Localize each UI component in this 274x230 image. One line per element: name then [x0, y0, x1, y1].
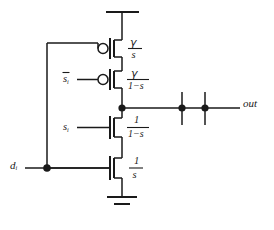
size-label-nmos-bottom: 1 s: [129, 155, 143, 181]
size-label-nmos-top: 1 1−s: [127, 114, 149, 139]
svg-text:1−s: 1−s: [128, 80, 144, 91]
label-select: si: [63, 121, 69, 133]
svg-text:1: 1: [134, 155, 139, 166]
data-junction-dot: [43, 164, 51, 172]
svg-text:1: 1: [134, 114, 139, 125]
transistor-nmos-top: [77, 108, 122, 152]
data-input-wire: [25, 43, 110, 172]
svg-text:γ: γ: [131, 67, 138, 80]
svg-text:s: s: [132, 49, 136, 60]
inversion-bubble-icon: [98, 75, 108, 85]
label-select-bar: si: [63, 73, 70, 86]
schematic-canvas: γ s si γ 1−s: [0, 0, 274, 230]
cross-junction-dot-2: [201, 104, 208, 111]
label-output: out: [243, 97, 258, 109]
svg-text:1−s: 1−s: [128, 128, 144, 139]
ground-symbol: [107, 197, 137, 204]
svg-text:γ: γ: [130, 36, 137, 49]
transistor-pmos-bottom: [77, 68, 122, 108]
transistor-pmos-top: [47, 31, 122, 68]
transistor-nmos-bottom: [47, 152, 122, 197]
svg-text:si: si: [63, 73, 69, 85]
output-wire-group: [122, 92, 240, 125]
size-label-pmos-bottom: γ 1−s: [127, 67, 149, 92]
label-data-input: di: [10, 159, 18, 172]
svg-text:s: s: [133, 169, 137, 180]
size-label-pmos-top: γ s: [128, 36, 142, 61]
circuit-diagram: γ s si γ 1−s: [0, 0, 274, 230]
inversion-bubble-icon: [98, 44, 108, 54]
cross-junction-dot-1: [178, 104, 185, 111]
supply-rail: [106, 12, 139, 31]
